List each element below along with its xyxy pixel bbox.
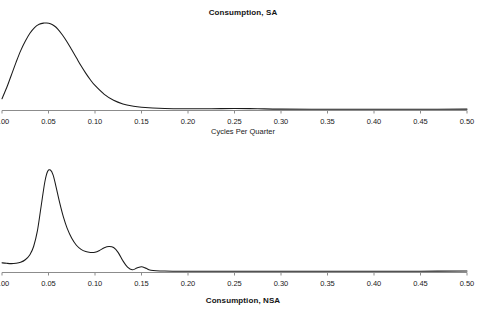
spectral-density-curve-nsa — [2, 170, 467, 272]
plot-area-sa — [0, 0, 486, 145]
chart-panel-consumption-sa: Consumption, SA 0.000.050.100.150.200.25… — [0, 0, 486, 145]
spectral-density-curve-sa — [2, 23, 467, 109]
x-axis-label-sa: Cycles Per Quarter — [0, 127, 486, 136]
plot-area-nsa — [0, 145, 486, 311]
chart-panel-consumption-nsa: Consumption, NSA 0.000.050.100.150.200.2… — [0, 145, 486, 311]
